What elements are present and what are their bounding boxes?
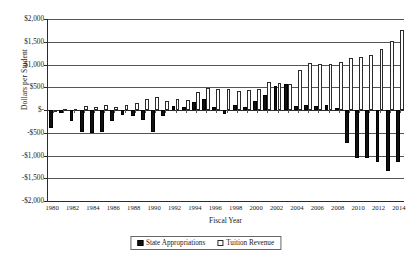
gridline bbox=[48, 19, 404, 20]
x-axis-line bbox=[48, 201, 404, 202]
x-axis-tick bbox=[125, 110, 126, 113]
x-axis-tick bbox=[247, 110, 248, 113]
bar-tuition-1992 bbox=[176, 99, 180, 110]
bar-tuition-1990 bbox=[155, 97, 159, 110]
bar-state-2013 bbox=[386, 110, 390, 171]
gridline bbox=[48, 178, 404, 179]
bar-tuition-2008 bbox=[339, 62, 343, 110]
x-axis-title: Fiscal Year bbox=[47, 216, 404, 225]
legend-entry-state-appropriations: State Appropriations bbox=[137, 239, 205, 247]
bar-state-1984 bbox=[90, 110, 94, 133]
y-axis-tick-label: $500 bbox=[0, 83, 44, 91]
x-axis-tick bbox=[318, 110, 319, 113]
x-axis-tick bbox=[53, 110, 54, 113]
bar-tuition-1999 bbox=[247, 90, 251, 110]
x-axis-tick bbox=[114, 110, 115, 113]
bar-state-2011 bbox=[365, 110, 369, 158]
x-axis-tick bbox=[329, 110, 330, 113]
x-axis-tick bbox=[278, 110, 279, 113]
x-axis-tick bbox=[63, 110, 64, 113]
x-axis-tick bbox=[186, 110, 187, 113]
bar-state-1985 bbox=[100, 110, 104, 132]
bar-tuition-2006 bbox=[318, 64, 322, 110]
x-axis-tick bbox=[135, 110, 136, 113]
y-axis-tick bbox=[44, 42, 48, 43]
legend-label: Tuition Revenue bbox=[226, 239, 274, 247]
y-axis-tick bbox=[44, 87, 48, 88]
y-axis-tick bbox=[44, 110, 48, 111]
bar-tuition-1988 bbox=[135, 103, 139, 110]
x-axis-tick bbox=[308, 110, 309, 113]
gridline bbox=[48, 133, 404, 134]
y-axis-tick bbox=[44, 133, 48, 134]
bar-tuition-2013 bbox=[390, 41, 394, 110]
bar-tuition-1997 bbox=[227, 89, 231, 110]
gridline bbox=[48, 42, 404, 43]
bar-tuition-1998 bbox=[237, 91, 241, 110]
bar-tuition-2007 bbox=[329, 64, 333, 110]
x-axis-tick bbox=[196, 110, 197, 113]
y-axis-tick-label: $1,000 bbox=[0, 61, 44, 69]
bar-tuition-1991 bbox=[165, 101, 169, 110]
y-axis-tick-label: -$1,500 bbox=[0, 174, 44, 182]
gridline bbox=[48, 156, 404, 157]
x-axis-tick bbox=[349, 110, 350, 113]
bar-tuition-2009 bbox=[349, 58, 353, 110]
x-axis-tick bbox=[339, 110, 340, 113]
bar-tuition-1996 bbox=[216, 89, 220, 110]
x-axis-tick bbox=[380, 110, 381, 113]
x-axis-tick bbox=[237, 110, 238, 113]
x-axis-tick bbox=[359, 110, 360, 113]
bar-tuition-2004 bbox=[298, 70, 302, 110]
x-axis-tick bbox=[74, 110, 75, 113]
y-axis-tick-label: $- bbox=[0, 106, 44, 114]
legend-entry-tuition-revenue: Tuition Revenue bbox=[217, 239, 274, 247]
plot-area bbox=[47, 19, 404, 201]
y-axis-tick bbox=[44, 65, 48, 66]
x-axis-tick bbox=[165, 110, 166, 113]
x-axis-tick bbox=[227, 110, 228, 113]
y-axis-tick bbox=[44, 19, 48, 20]
bar-tuition-1994 bbox=[196, 92, 200, 110]
y-axis-tick bbox=[44, 178, 48, 179]
bar-tuition-2001 bbox=[267, 82, 271, 110]
bar-tuition-2014 bbox=[400, 30, 404, 110]
y-axis-tick-label: $1,500 bbox=[0, 38, 44, 46]
bar-state-2009 bbox=[345, 110, 349, 143]
bar-state-2014 bbox=[396, 110, 400, 162]
x-axis-tick bbox=[267, 110, 268, 113]
x-axis-tick bbox=[104, 110, 105, 113]
y-axis-tick bbox=[44, 156, 48, 157]
x-axis-tick bbox=[390, 110, 391, 113]
bar-state-1990 bbox=[151, 110, 155, 132]
chart-legend: State AppropriationsTuition Revenue bbox=[130, 236, 281, 250]
y-axis-tick-label: -$500 bbox=[0, 129, 44, 137]
bar-state-2010 bbox=[355, 110, 359, 158]
bar-state-1983 bbox=[80, 110, 84, 132]
bar-tuition-1995 bbox=[206, 88, 210, 110]
y-axis-tick-labels: $2,000$1,500$1,000$500$--$500-$1,000-$1,… bbox=[0, 0, 44, 262]
bar-tuition-2005 bbox=[308, 63, 312, 110]
bar-chart: Dollars per Student $2,000$1,500$1,000$5… bbox=[0, 0, 411, 262]
legend-label: State Appropriations bbox=[146, 239, 205, 247]
x-axis-tick bbox=[216, 110, 217, 113]
x-axis-tick bbox=[400, 110, 401, 113]
bar-tuition-2002 bbox=[278, 83, 282, 110]
bar-tuition-2010 bbox=[359, 57, 363, 110]
bar-tuition-2012 bbox=[380, 49, 384, 110]
x-axis-tick bbox=[257, 110, 258, 113]
y-axis-tick-label: -$1,000 bbox=[0, 152, 44, 160]
x-axis-tick bbox=[155, 110, 156, 113]
bar-tuition-1989 bbox=[145, 99, 149, 110]
y-axis-tick-label: $2,000 bbox=[0, 15, 44, 23]
x-axis-tick bbox=[94, 110, 95, 113]
x-axis-tick bbox=[145, 110, 146, 113]
x-axis-tick bbox=[206, 110, 207, 113]
x-axis-tick bbox=[298, 110, 299, 113]
x-axis-tick bbox=[288, 110, 289, 113]
x-axis-tick-label: 2014 bbox=[384, 204, 411, 212]
bar-tuition-2011 bbox=[369, 55, 373, 110]
legend-swatch-icon bbox=[137, 240, 143, 246]
bar-tuition-1993 bbox=[186, 100, 190, 110]
x-axis-tick bbox=[176, 110, 177, 113]
